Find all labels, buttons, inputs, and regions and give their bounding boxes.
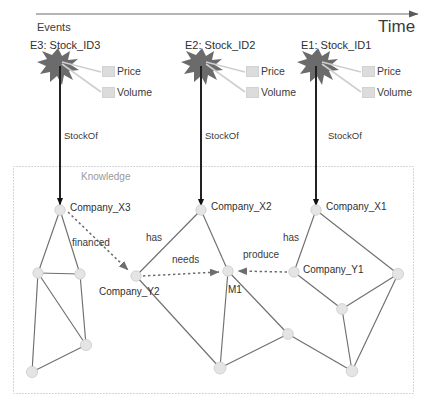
event-attr-E2-price: Price [261, 66, 285, 77]
event-attr-E1-price: Price [377, 66, 401, 77]
node-label-company-x1: Company_X1 [326, 202, 387, 212]
graph-node-left-d [26, 366, 37, 377]
event-title-E1: E1: Stock_ID1 [301, 40, 371, 51]
event-E1-attr-line-volume [322, 64, 361, 92]
node-label-company-x3: Company_X3 [70, 203, 131, 213]
stockof-label-E1: StockOf [328, 131, 362, 141]
graph-node-right-a [392, 268, 403, 279]
node-label-company-y1: Company_Y1 [303, 265, 364, 275]
graph-node-company-x3 [55, 205, 65, 215]
graph-node-m1 [223, 266, 233, 276]
volume-swatch-icon [362, 87, 375, 98]
graph-node-mid-right [283, 329, 294, 340]
price-swatch-icon [246, 66, 259, 77]
relation-label-needs: needs [172, 255, 199, 265]
time-axis-label: Time [378, 18, 415, 35]
graph-node-company-y1 [289, 267, 299, 277]
knowledge-box-label: Knowledge [81, 172, 130, 182]
event-burst-E3 [37, 48, 79, 85]
relation-edge-needs [143, 272, 219, 276]
diagram-canvas: Time Events E3: Stock_ID3 Price Volume S… [0, 0, 444, 405]
graph-node-company-x1 [311, 205, 321, 215]
graph-node-right-b [337, 304, 348, 315]
relation-label-has-x2: has [146, 233, 162, 243]
graph-node-left-a [33, 268, 43, 278]
event-title-E2: E2: Stock_ID2 [185, 40, 255, 51]
event-attr-E3-volume: Volume [117, 87, 152, 98]
node-label-company-x2: Company_X2 [211, 202, 272, 212]
volume-swatch-icon [246, 87, 259, 98]
graph-node-company-x2 [196, 205, 206, 215]
event-attr-E1-volume: Volume [377, 87, 412, 98]
price-swatch-icon [362, 66, 375, 77]
event-E2-attr-line-volume [206, 64, 245, 92]
graph-node-left-c [80, 339, 91, 350]
event-attr-E2-volume: Volume [261, 87, 296, 98]
stockof-label-E3: StockOf [64, 131, 98, 141]
graph-node-mid-bottom [214, 362, 226, 374]
graph-node-left-b [75, 269, 85, 279]
relation-edge-produce [238, 271, 287, 272]
volume-swatch-icon [102, 87, 115, 98]
stockof-label-E2: StockOf [205, 131, 239, 141]
node-label-m1: M1 [228, 285, 242, 295]
graph-node-company-y2 [131, 271, 141, 281]
event-attr-E3-price: Price [117, 66, 141, 77]
relation-label-financed: financed [72, 238, 110, 248]
event-title-E3: E3: Stock_ID3 [30, 40, 100, 51]
event-burst-E1 [297, 48, 339, 85]
event-E3-attr-line-volume [62, 64, 101, 92]
relation-label-produce: produce [243, 250, 279, 260]
node-label-company-y2: Company_Y2 [99, 287, 160, 297]
price-swatch-icon [102, 66, 115, 77]
graph-nodes [26, 205, 403, 378]
graph-node-right-c [346, 365, 358, 377]
events-section-label: Events [37, 22, 71, 33]
relation-label-has-x1: has [283, 233, 299, 243]
